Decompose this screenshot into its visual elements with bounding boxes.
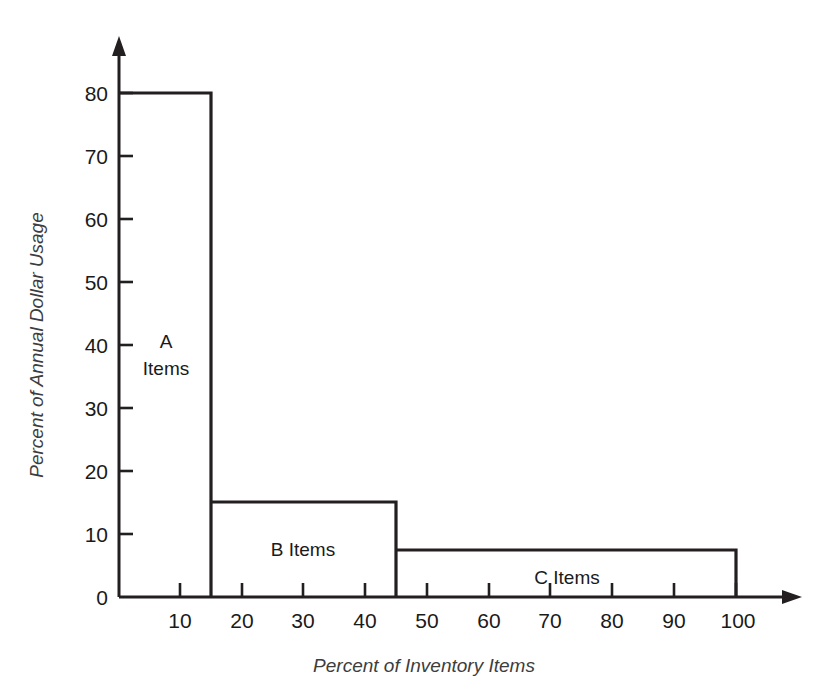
x-tick-marks: [180, 583, 736, 597]
x-tick-label-10: 10: [168, 609, 191, 632]
x-tick-label-70: 70: [538, 609, 561, 632]
y-tick-label-40: 40: [85, 334, 108, 357]
x-tick-label-20: 20: [230, 609, 253, 632]
y-tick-label-0: 0: [96, 586, 108, 609]
y-tick-label-80: 80: [85, 82, 108, 105]
bar-label-a-line2: Items: [143, 358, 189, 379]
abc-analysis-plot: 80 70 60 50 40 30 20 10 0 10 20: [0, 0, 826, 688]
x-axis-title: Percent of Inventory Items: [313, 655, 535, 676]
y-axis-title: Percent of Annual Dollar Usage: [26, 212, 47, 477]
x-tick-label-80: 80: [600, 609, 623, 632]
y-tick-label-30: 30: [85, 397, 108, 420]
y-axis-arrowhead: [112, 36, 126, 56]
y-axis: [112, 36, 126, 597]
x-tick-label-100: 100: [720, 609, 755, 632]
bar-label-a-line1: A: [160, 331, 173, 352]
x-tick-label-90: 90: [662, 609, 685, 632]
x-tick-label-60: 60: [477, 609, 500, 632]
x-tick-label-40: 40: [353, 609, 376, 632]
y-tick-label-10: 10: [85, 523, 108, 546]
chart-figure: — 80 70 60 50 4: [0, 0, 826, 688]
y-tick-marks: [119, 93, 133, 534]
y-tick-label-50: 50: [85, 271, 108, 294]
x-tick-label-50: 50: [415, 609, 438, 632]
bar-series: [119, 93, 736, 597]
bar-label-c: C Items: [534, 567, 599, 588]
x-tick-labels: 10 20 30 40 50 60 70 80 90 100: [168, 609, 755, 632]
y-tick-label-70: 70: [85, 145, 108, 168]
y-tick-label-60: 60: [85, 208, 108, 231]
y-tick-labels: 80 70 60 50 40 30 20 10 0: [85, 82, 108, 609]
x-axis-arrowhead: [782, 590, 802, 604]
y-tick-label-20: 20: [85, 460, 108, 483]
x-axis: [119, 590, 802, 604]
bar-label-b: B Items: [271, 539, 335, 560]
x-tick-label-30: 30: [291, 609, 314, 632]
